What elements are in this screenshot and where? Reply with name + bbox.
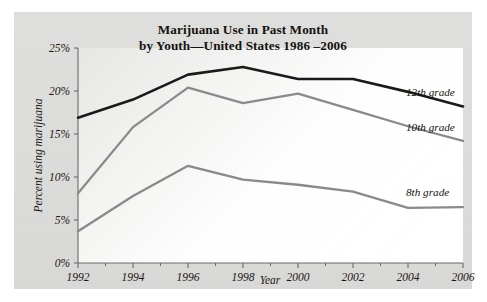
x-tick-label: 1992 — [67, 271, 90, 283]
y-tick-label: 20% — [49, 85, 70, 97]
x-axis-title: Year — [260, 274, 281, 286]
x-tick-label: 2006 — [452, 271, 475, 283]
y-tick-label: 10% — [49, 171, 70, 183]
chart-svg: 0%5%10%15%20%25% 19921994199619982000200… — [14, 12, 472, 289]
series-line-8th-grade — [78, 166, 463, 231]
y-tick-label: 5% — [55, 214, 70, 226]
chart-figure: Marijuana Use in Past Month by Youth—Uni… — [14, 12, 472, 289]
x-tick-label: 2004 — [397, 271, 420, 283]
series-label-8th-grade: 8th grade — [406, 186, 449, 198]
x-tick-label: 2000 — [287, 271, 310, 283]
series-label-10th-grade: 10th grade — [406, 121, 455, 133]
x-tick-label: 1998 — [232, 271, 255, 283]
y-axis: 0%5%10%15%20%25% — [49, 42, 78, 269]
series-line-10th-grade — [78, 88, 463, 194]
series-label-12th-grade: 12th grade — [406, 86, 455, 98]
y-axis-tick-labels: 0%5%10%15%20%25% — [49, 42, 70, 269]
y-tick-label: 15% — [49, 128, 70, 140]
y-axis-title: Percent using marijuana — [32, 98, 45, 213]
y-tick-label: 25% — [49, 42, 70, 54]
x-tick-label: 1994 — [122, 271, 145, 283]
x-tick-label: 2002 — [342, 271, 365, 283]
x-tick-label: 1996 — [177, 271, 200, 283]
y-tick-label: 0% — [55, 257, 70, 269]
